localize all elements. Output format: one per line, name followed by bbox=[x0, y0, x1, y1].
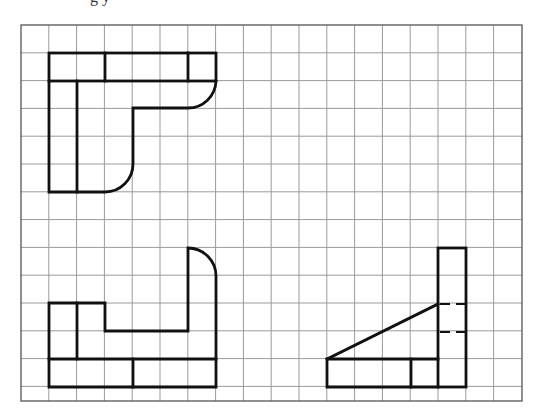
side-view-figure bbox=[327, 248, 466, 387]
drawing-canvas bbox=[0, 0, 539, 420]
